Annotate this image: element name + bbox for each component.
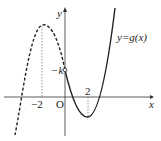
curve-solid-right — [65, 8, 115, 117]
y-axis-label: y — [57, 8, 62, 19]
graph-canvas — [0, 0, 161, 141]
tick-label-neg-k: −k — [51, 65, 63, 76]
curve-label: y=g(x) — [117, 32, 147, 43]
open-point-neg-k — [63, 68, 67, 72]
x-axis-label: x — [149, 99, 154, 110]
curve-dashed-left — [15, 25, 65, 135]
tick-label-2: 2 — [85, 86, 91, 97]
origin-label: O — [56, 99, 64, 110]
y-axis-arrow-icon — [63, 7, 67, 12]
tick-label-neg2: −2 — [31, 99, 43, 110]
